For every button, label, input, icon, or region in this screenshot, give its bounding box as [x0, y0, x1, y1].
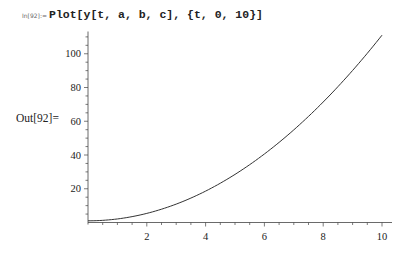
plot-area: 24681020406080100 — [0, 0, 408, 256]
plot-curve — [88, 35, 382, 221]
y-tick-label: 60 — [71, 116, 82, 127]
y-tick-label: 80 — [71, 82, 82, 93]
x-tick-label: 10 — [377, 231, 388, 242]
x-tick-label: 6 — [262, 231, 267, 242]
y-tick-label: 100 — [65, 48, 81, 59]
y-tick-label: 20 — [71, 183, 82, 194]
y-tick-label: 40 — [71, 150, 82, 161]
x-tick-label: 2 — [144, 231, 149, 242]
x-tick-label: 8 — [321, 231, 326, 242]
x-tick-label: 4 — [203, 231, 209, 242]
